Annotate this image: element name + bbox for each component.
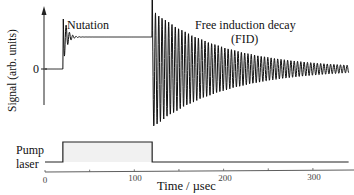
pump-label-line1: Pump [16,144,44,156]
fid-label: Free induction decay [195,19,296,31]
x-tick-0: 0 [43,176,48,185]
pump-label-line2: laser [16,158,39,170]
x-axis-label: Time / µsec [157,180,216,192]
x-tick-300: 300 [307,173,321,182]
pump-pulse-fill [63,142,152,162]
zero-label: 0 [33,63,39,75]
y-axis-label: Signal (arb. units) [6,29,18,112]
signal-plot [0,0,354,195]
x-tick-100: 100 [128,174,142,183]
fid-abbrev-label: (FID) [231,33,258,45]
x-tick-200: 200 [218,174,232,183]
y-axis-arrow-icon [42,6,47,15]
nutation-label: Nutation [67,19,109,31]
